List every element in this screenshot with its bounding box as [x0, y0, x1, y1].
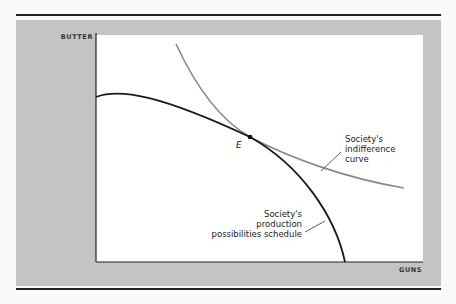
ppf-label: Society's production possibilities sched…: [212, 209, 302, 239]
indifference-curve-label: Society's indifference curve: [345, 134, 395, 164]
x-axis-label: GUNS: [399, 266, 422, 274]
y-axis-label: BUTTER: [61, 33, 93, 41]
label-line: production: [212, 219, 302, 229]
label-line: indifference: [345, 144, 395, 154]
label-line: curve: [345, 154, 395, 164]
equilibrium-point: [248, 135, 253, 140]
bottom-rule: [16, 288, 441, 290]
ppf-leader-line: [305, 221, 325, 232]
indifference-leader-line: [321, 152, 341, 171]
label-line: possibilities schedule: [212, 229, 302, 239]
label-line: Society's: [212, 209, 302, 219]
equilibrium-label: E: [236, 140, 242, 150]
label-line: Society's: [345, 134, 395, 144]
